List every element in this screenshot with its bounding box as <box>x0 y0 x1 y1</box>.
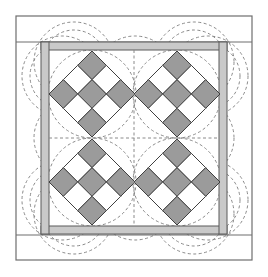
sashing-bottom <box>41 226 227 234</box>
sashing-top <box>41 42 227 50</box>
sashing-left <box>41 42 49 234</box>
quilt-diagram <box>0 0 268 277</box>
sashing-right <box>219 42 227 234</box>
